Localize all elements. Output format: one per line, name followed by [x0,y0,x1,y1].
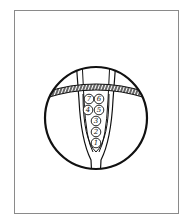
egg-5: 5 [94,105,104,115]
egg-7: 7 [84,94,94,104]
egg-3: 3 [91,116,101,126]
diagram-canvas: 7 6 4 5 3 2 1 [0,0,189,223]
svg-text:7: 7 [87,95,92,103]
egg-1: 1 [91,138,101,148]
eggs: 7 6 4 5 3 2 1 [83,94,104,148]
egg-4: 4 [83,105,93,115]
egg-6: 6 [94,94,104,104]
svg-text:3: 3 [94,117,99,125]
svg-text:2: 2 [93,128,99,136]
svg-text:5: 5 [97,106,102,114]
svg-text:6: 6 [97,95,102,103]
egg-2: 2 [91,127,101,137]
svg-text:4: 4 [85,106,90,114]
svg-text:1: 1 [94,139,98,147]
